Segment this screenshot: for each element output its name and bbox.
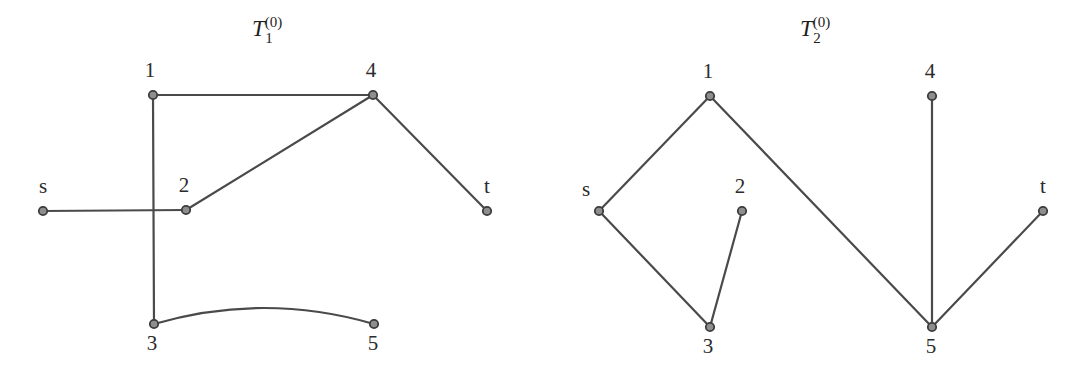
graph-node-label-1: 1 — [703, 59, 714, 83]
figure-container: T1(0) T2(0) s12345t s12345t — [0, 0, 1080, 375]
graph-node-4[interactable] — [369, 91, 377, 99]
graph-node-label-1: 1 — [145, 58, 156, 82]
graph-node-2[interactable] — [182, 206, 190, 214]
graph-node-label-t: t — [484, 174, 490, 198]
graph-edge-s-2 — [43, 210, 186, 211]
graph-node-label-2: 2 — [735, 174, 746, 198]
graph-node-label-4: 4 — [366, 58, 377, 82]
graph-edge-5-t — [932, 211, 1043, 327]
left-graph: s12345t — [39, 58, 491, 355]
graph-node-label-5: 5 — [368, 331, 379, 355]
graph-node-s[interactable] — [39, 207, 47, 215]
graph-canvas: s12345t s12345t — [0, 0, 1080, 375]
graph-node-label-3: 3 — [147, 331, 158, 355]
graph-edge-3-5 — [154, 308, 374, 324]
graph-node-label-4: 4 — [925, 59, 936, 83]
graph-node-label-s: s — [39, 174, 47, 198]
graph-node-1[interactable] — [706, 92, 714, 100]
graph-node-3[interactable] — [706, 323, 714, 331]
graph-edge-4-t — [373, 95, 487, 211]
graph-edge-2-4 — [186, 95, 373, 210]
right-graph: s12345t — [582, 59, 1047, 358]
graph-node-label-t: t — [1040, 174, 1046, 198]
graph-node-t[interactable] — [1039, 207, 1047, 215]
graph-node-3[interactable] — [150, 320, 158, 328]
graph-edge-3-2 — [710, 211, 742, 327]
graph-node-5[interactable] — [928, 323, 936, 331]
graph-node-label-2: 2 — [179, 173, 190, 197]
graph-node-5[interactable] — [370, 320, 378, 328]
graph-node-4[interactable] — [928, 92, 936, 100]
graph-edge-1-3 — [153, 95, 154, 324]
graph-node-1[interactable] — [149, 91, 157, 99]
graph-node-label-3: 3 — [703, 334, 714, 358]
graph-node-label-s: s — [582, 177, 590, 201]
graph-node-t[interactable] — [483, 207, 491, 215]
graph-edge-s-1 — [599, 96, 710, 211]
graph-edge-s-3 — [599, 211, 710, 327]
graph-node-2[interactable] — [738, 207, 746, 215]
graph-node-s[interactable] — [595, 207, 603, 215]
graph-node-label-5: 5 — [926, 334, 937, 358]
